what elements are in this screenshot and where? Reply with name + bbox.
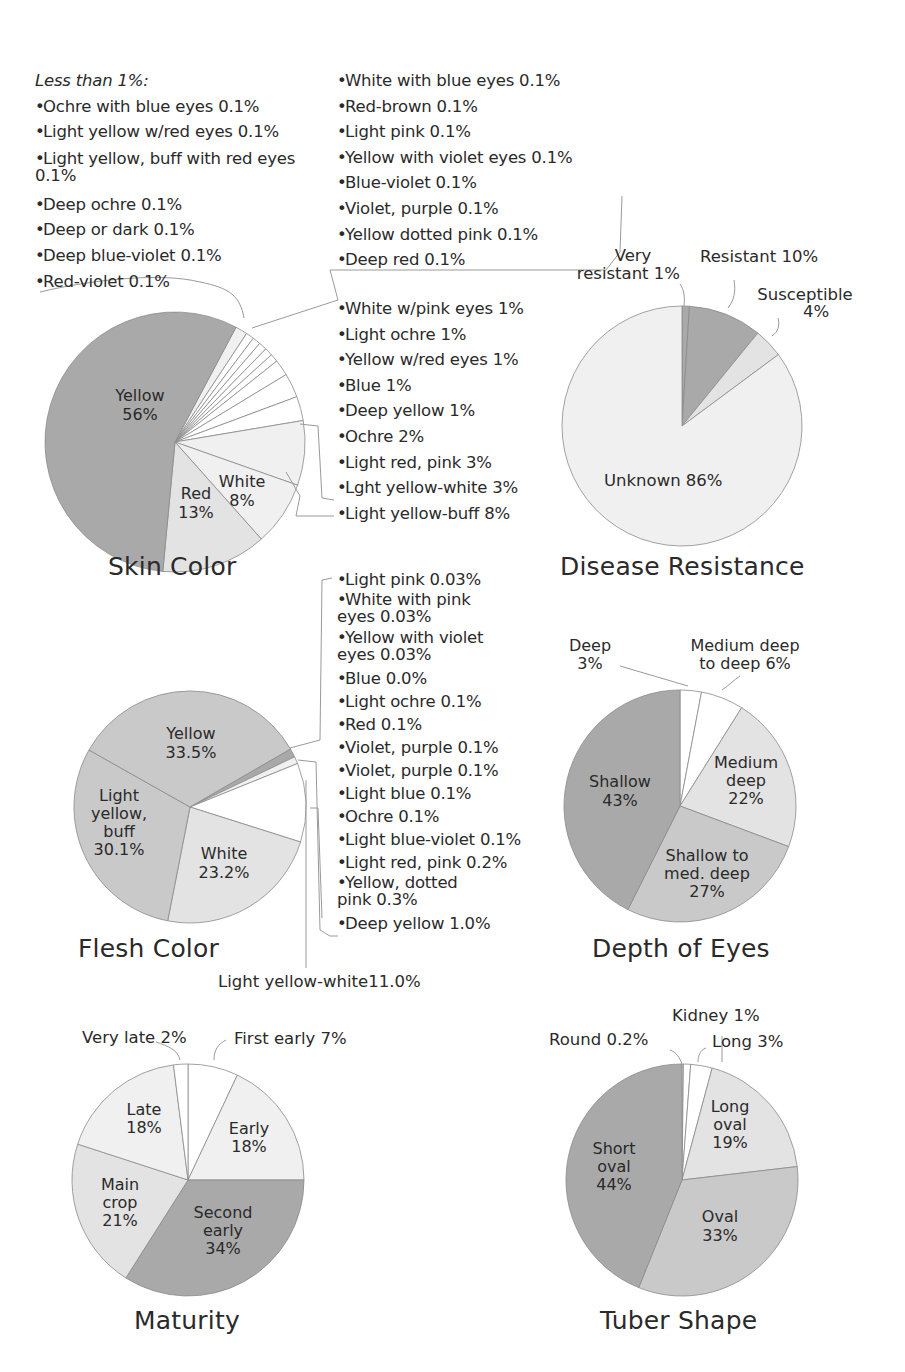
list-item: •Blue 1% [337, 373, 524, 399]
first-early-label: First early 7% [234, 1029, 347, 1048]
list-item: •Yellow with violet eyes 0.1% [337, 145, 572, 171]
list-item: •Violet, purple 0.1% [337, 759, 567, 782]
shallow-to-med-deep-label: Shallow tomed. deep27% [652, 847, 762, 901]
flesh-color-title: Flesh Color [78, 934, 219, 963]
second-early-label: Secondearly34% [184, 1204, 262, 1258]
list-item: •Light red, pink 3% [337, 450, 524, 476]
list-item: •White with pink eyes 0.03% [337, 591, 507, 625]
list-item: •Ochre 0.1% [337, 805, 567, 828]
tuber-shape-title: Tuber Shape [600, 1306, 757, 1335]
list-item: •Light pink 0.03% [337, 568, 567, 591]
list-item: •Lght yellow-white 3% [337, 475, 524, 501]
very-late-label: Very late 2% [82, 1028, 187, 1047]
list-item: •Light pink 0.1% [337, 119, 572, 145]
skin-color-pie [45, 312, 305, 572]
list-item: •Ochre with blue eyes 0.1% [35, 94, 305, 120]
kidney-label: Kidney 1% [672, 1006, 760, 1025]
list-item: •Yellow, dotted pink 0.3% [337, 874, 487, 908]
late-label: Late18% [116, 1101, 172, 1137]
list-item: •White w/pink eyes 1% [337, 296, 524, 322]
list-item: •Deep or dark 0.1% [35, 217, 305, 243]
list-item: •Red-brown 0.1% [337, 94, 572, 120]
very-resistant-label: Very resistant 1% [560, 247, 680, 283]
list-item: •Blue 0.0% [337, 667, 567, 690]
list-item: •Light ochre 0.1% [337, 690, 567, 713]
list-item: •Red-violet 0.1% [35, 269, 305, 295]
shallow-label: Shallow43% [580, 772, 660, 810]
list-item: •Yellow w/red eyes 1% [337, 347, 524, 373]
depth-of-eyes-title: Depth of Eyes [592, 934, 770, 963]
flesh-white-label: White23.2% [184, 844, 264, 882]
list-item: •Deep red 0.1% [337, 247, 572, 273]
short-oval-label: Shortoval44% [584, 1140, 644, 1194]
skin-color-less-than-list: Less than 1%: •Ochre with blue eyes 0.1%… [35, 68, 305, 294]
round-label: Round 0.2% [549, 1030, 648, 1049]
deep-label: Deep3% [562, 637, 618, 673]
list-item: •Light blue 0.1% [337, 782, 567, 805]
list-item: •Deep ochre 0.1% [35, 192, 305, 218]
disease-resistance-title: Disease Resistance [560, 552, 805, 581]
list-item: •Light red, pink 0.2% [337, 851, 567, 874]
list-item: •Blue-violet 0.1% [337, 170, 572, 196]
disease-resistance-pie [562, 306, 802, 546]
skin-color-title: Skin Color [108, 552, 236, 581]
resistant-label: Resistant 10% [700, 247, 818, 266]
medium-deep-label: Mediumdeep22% [706, 754, 786, 808]
flesh-yellow-label: Yellow33.5% [146, 724, 236, 762]
list-item: •Yellow with violet eyes 0.03% [337, 629, 517, 663]
skin-white-label: White8% [214, 472, 270, 510]
list-item: •Light yellow w/red eyes 0.1% [35, 119, 305, 145]
list-item: •Deep yellow 1.0% [337, 912, 567, 935]
light-yellow-white-callout: Light yellow-white11.0% [218, 972, 421, 991]
list-item: •Light ochre 1% [337, 322, 524, 348]
skin-color-minor-list: •White w/pink eyes 1% •Light ochre 1% •Y… [337, 296, 524, 526]
medium-deep-to-deep-label: Medium deepto deep 6% [680, 637, 810, 673]
flesh-color-minor-list: •Light pink 0.03% •White with pink eyes … [337, 568, 567, 935]
list-item: •White with blue eyes 0.1% [337, 68, 572, 94]
oval-label: Oval33% [690, 1207, 750, 1245]
long-oval-label: Longoval19% [700, 1098, 760, 1152]
list-item: •Violet, purple 0.1% [337, 736, 567, 759]
long-label: Long 3% [712, 1032, 783, 1051]
list-item: •Deep blue-violet 0.1% [35, 243, 305, 269]
flesh-buff-label: Lightyellow, buff30.1% [84, 787, 154, 859]
list-item: •Red 0.1% [337, 713, 567, 736]
skin-yellow-label: Yellow56% [98, 386, 182, 424]
list-item: •Light yellow, buff with red eyes 0.1% [35, 145, 305, 184]
less-than-header: Less than 1%: [35, 68, 305, 94]
list-item: •Yellow dotted pink 0.1% [337, 222, 572, 248]
skin-color-less-than-list-right: •White with blue eyes 0.1% •Red-brown 0.… [337, 68, 572, 273]
main-crop-label: Maincrop21% [90, 1176, 150, 1230]
list-item: •Ochre 2% [337, 424, 524, 450]
maturity-title: Maturity [134, 1306, 240, 1335]
list-item: •Violet, purple 0.1% [337, 196, 572, 222]
list-item: •Light blue-violet 0.1% [337, 828, 567, 851]
list-item: •Deep yellow 1% [337, 398, 524, 424]
early-label: Early18% [214, 1120, 284, 1156]
susceptible-label: Susceptible4% [750, 286, 860, 320]
unknown-label: Unknown 86% [604, 471, 723, 490]
list-item: •Light yellow-buff 8% [337, 501, 524, 527]
